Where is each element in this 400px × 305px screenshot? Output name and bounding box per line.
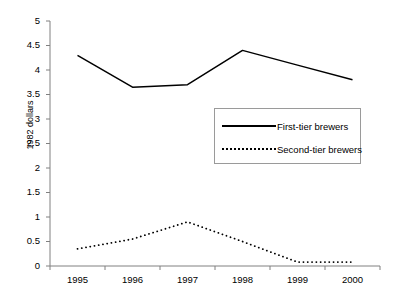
y-tick-label: 3.5	[14, 89, 40, 99]
x-tick-label: 1995	[48, 274, 108, 285]
legend-label-first-tier: First-tier brewers	[277, 121, 348, 132]
y-tick-label: 4.5	[14, 40, 40, 50]
y-tick-label: 1	[14, 212, 40, 222]
x-tick-label: 1999	[268, 274, 328, 285]
y-tick-label: 3	[14, 114, 40, 124]
legend-label-second-tier: Second-tier brewers	[277, 144, 362, 155]
chart-legend: First-tier brewers Second-tier brewers	[214, 108, 361, 164]
x-tick-label: 2000	[323, 274, 383, 285]
legend-entry-first-tier: First-tier brewers	[215, 119, 360, 133]
x-tick-label: 1997	[158, 274, 218, 285]
legend-solid-line-icon	[222, 120, 276, 132]
y-tick-label: 1.5	[14, 187, 40, 197]
y-tick-label: 2.5	[14, 138, 40, 148]
line-chart: 1982 dollars 54.543.532.521.510.50 19951…	[0, 0, 400, 305]
x-tick-label: 1998	[213, 274, 273, 285]
legend-entry-second-tier: Second-tier brewers	[215, 142, 360, 156]
y-tick-label: 2	[14, 163, 40, 173]
y-tick-label: 4	[14, 65, 40, 75]
y-tick-label: 0.5	[14, 236, 40, 246]
x-tick-label: 1996	[103, 274, 163, 285]
y-tick-label: 5	[14, 16, 40, 26]
y-tick-label: 0	[14, 261, 40, 271]
legend-dotted-line-icon	[222, 143, 276, 155]
